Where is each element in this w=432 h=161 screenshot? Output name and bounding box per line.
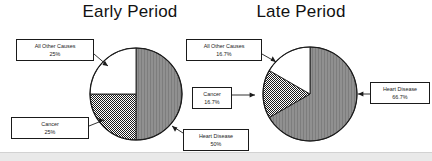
callout-late-all-other-causes[interactable]: All Other Causes 16.7% (186, 39, 262, 61)
early-slice-heart-disease (136, 48, 182, 140)
callout-label: Cancer (15, 120, 85, 128)
callout-label: All Other Causes (190, 42, 258, 50)
chart-title-late: Late Period (236, 2, 366, 22)
page-edge-band (0, 152, 432, 161)
early-slice-cancer (90, 94, 136, 140)
callout-percent: 50% (187, 140, 245, 148)
callout-label: All Other Causes (20, 42, 90, 50)
early-slice-all-other-causes (90, 48, 136, 94)
callout-label: Heart Disease (374, 85, 426, 93)
callout-percent: 66.7% (374, 93, 426, 101)
callout-percent: 25% (20, 50, 90, 58)
callout-early-all-other-causes[interactable]: All Other Causes 25% (16, 39, 94, 61)
callout-label: Cancer (196, 90, 228, 98)
callout-late-cancer[interactable]: Cancer 16.7% (192, 87, 232, 109)
callout-percent: 25% (15, 128, 85, 136)
callout-percent: 16.7% (196, 98, 228, 106)
late-cancer-arrowhead (250, 92, 255, 97)
callout-label: Heart Disease (187, 132, 245, 140)
callout-early-heart-disease[interactable]: Heart Disease 50% (183, 129, 249, 151)
early-heart-arrowhead (172, 126, 177, 132)
late-heart-arrowhead (358, 91, 363, 96)
callout-early-cancer[interactable]: Cancer 25% (11, 117, 89, 139)
chart-title-early: Early Period (60, 2, 200, 22)
late-other-arrowhead (271, 56, 276, 62)
figure-canvas: Early Period Late Period All Other Cause… (0, 0, 432, 161)
callout-late-heart-disease[interactable]: Heart Disease 66.7% (370, 82, 430, 104)
callout-percent: 16.7% (190, 50, 258, 58)
